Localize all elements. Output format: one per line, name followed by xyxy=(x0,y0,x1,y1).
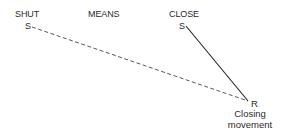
referent-caption-line1: Closing xyxy=(220,108,280,119)
heading-means: MEANS xyxy=(88,9,120,19)
semantic-diagram: SHUT S MEANS CLOSE S R Closing movement xyxy=(0,0,288,137)
heading-close: CLOSE xyxy=(169,9,199,19)
dashed-edge-shut-to-referent xyxy=(32,27,248,101)
heading-shut: SHUT xyxy=(15,9,39,19)
symbol-shut-s: S xyxy=(25,21,31,31)
referent-caption-line2: movement xyxy=(220,119,280,130)
solid-edge-close-to-referent xyxy=(186,26,248,101)
symbol-close-s: S xyxy=(179,21,185,31)
